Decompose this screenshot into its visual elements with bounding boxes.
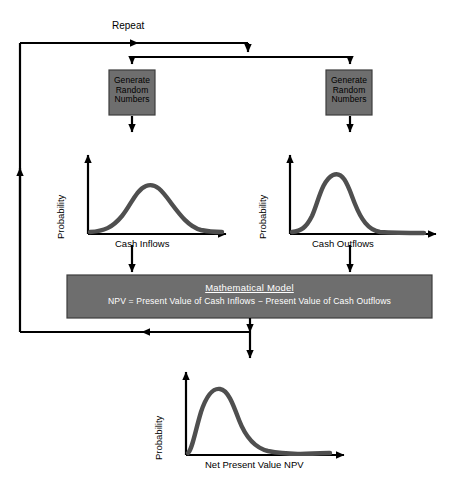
chart-npv-x-label: Net Present Value NPV: [205, 459, 304, 470]
diagram-graphics: [0, 0, 463, 490]
chart-cash-outflows: [290, 155, 436, 234]
chart-inflows-y-label: Probability: [55, 195, 66, 239]
chart-outflows-x-label: Cash Outflows: [312, 238, 374, 249]
diagram-canvas: Repeat Generate Random Numbers Generate …: [0, 0, 463, 490]
chart-outflows-curve: [292, 174, 424, 233]
repeat-branch-path: [20, 43, 350, 64]
chart-cash-inflows: [88, 155, 226, 234]
chart-npv-y-label: Probability: [153, 416, 164, 460]
chart-outflows-y-label: Probability: [257, 195, 268, 239]
chart-npv-curve: [188, 389, 330, 454]
chart-npv: [186, 372, 344, 455]
chart-inflows-x-label: Cash Inflows: [115, 238, 169, 249]
generate-random-numbers-box-left[interactable]: [109, 70, 155, 115]
chart-inflows-curve: [90, 185, 222, 232]
mathematical-model-box[interactable]: [67, 275, 432, 318]
repeat-label: Repeat: [112, 20, 144, 31]
generate-random-numbers-box-right[interactable]: [326, 70, 372, 115]
